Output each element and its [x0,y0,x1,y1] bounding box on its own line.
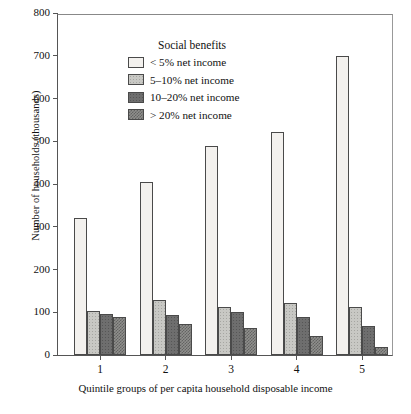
bar [362,326,375,355]
legend-item: > 20% net income [128,108,278,122]
legend-swatch [128,109,144,120]
legend-item: < 5% net income [128,55,278,69]
bar [166,315,179,355]
bar [100,314,113,355]
y-tick-mark [53,184,58,185]
bar [284,303,297,355]
bar [218,307,231,355]
x-tick-label: 5 [346,363,378,375]
x-tick-mark [296,355,297,360]
legend-swatch [128,57,144,68]
bar [244,328,257,355]
y-tick-label: 200 [16,262,50,277]
y-tick-label: 300 [16,219,50,234]
x-tick-label: 4 [281,363,313,375]
bar [179,324,192,355]
bar [271,132,284,355]
legend: Social benefits < 5% net income5–10% net… [128,39,278,125]
legend-item: 10–20% net income [128,90,278,104]
y-tick-mark [53,312,58,313]
y-tick-mark [53,269,58,270]
bar [297,317,310,355]
x-tick-mark [165,355,166,360]
x-tick-label: 2 [150,363,182,375]
plot-area: 0100200300400500600700800 12345 Social b… [57,14,393,356]
x-tick-mark [362,355,363,360]
x-tick-label: 3 [215,363,247,375]
y-tick-label: 600 [16,91,50,106]
legend-swatch [128,74,144,85]
legend-items: < 5% net income5–10% net income10–20% ne… [128,55,278,122]
y-tick-mark [53,98,58,99]
y-tick-label: 700 [16,48,50,63]
y-tick-mark [53,355,58,356]
bar [113,317,126,355]
bar [140,182,153,355]
y-tick-label: 800 [16,5,50,20]
legend-item-label: 5–10% net income [150,74,234,86]
bar [336,56,349,355]
legend-item-label: 10–20% net income [150,91,239,103]
bar [205,146,218,355]
y-tick-mark [53,13,58,14]
legend-item: 5–10% net income [128,73,278,87]
bar [74,218,87,355]
legend-title: Social benefits [158,39,278,51]
bar [310,336,323,355]
y-tick-mark [53,55,58,56]
legend-item-label: < 5% net income [150,56,226,68]
bar [87,311,100,355]
bar [349,307,362,355]
y-tick-label: 0 [16,347,50,362]
bar [153,300,166,355]
x-tick-label: 1 [84,363,116,375]
x-axis-title: Quintile groups of per capita household … [0,382,411,394]
x-tick-mark [100,355,101,360]
bar [231,312,244,355]
y-tick-label: 100 [16,304,50,319]
y-tick-mark [53,226,58,227]
y-tick-mark [53,141,58,142]
y-tick-label: 400 [16,176,50,191]
legend-swatch [128,92,144,103]
y-axis-title: Number of households (thousands) [30,46,41,286]
y-tick-label: 500 [16,133,50,148]
bar [375,347,388,355]
x-tick-mark [231,355,232,360]
legend-item-label: > 20% net income [150,109,232,121]
bar-chart-figure: Number of households (thousands) 0100200… [0,0,411,414]
